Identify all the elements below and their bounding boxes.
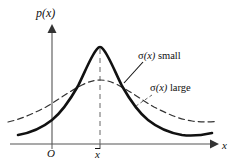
annotation-sigma-small: σ(x) small <box>138 51 181 62</box>
probability-density-figure: p(x) x O x σ(x) small σ(x) large <box>0 0 237 168</box>
x-bar-glyph: x <box>95 148 100 160</box>
x-tick-label-origin: O <box>47 148 55 159</box>
sigma-large-qualifier: large <box>170 82 191 93</box>
annotation-sigma-large: σ(x) large <box>150 83 191 94</box>
sigma-large-argument: (x) <box>156 82 168 93</box>
y-axis-label: p(x) <box>36 7 55 19</box>
x-tick-label-mean: x <box>95 148 100 160</box>
x-axis-arrowhead <box>210 140 219 149</box>
sigma-small-leader-line <box>124 62 143 83</box>
sigma-small-argument: (x) <box>144 50 156 61</box>
y-axis-arrowhead <box>48 24 57 33</box>
sigma-small-qualifier: small <box>158 50 181 61</box>
figure-canvas <box>0 0 237 168</box>
x-axis-label: x <box>222 140 227 151</box>
